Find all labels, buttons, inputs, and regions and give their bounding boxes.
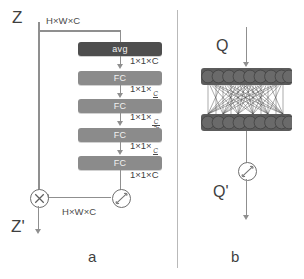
fc-block-4-label: FC: [114, 158, 127, 168]
avg-pool-label: avg: [112, 44, 127, 54]
panel-a-input-label: Z: [12, 9, 22, 26]
fc-block-1-label: FC: [114, 73, 127, 83]
figure-canvas: Z H×W×C avg 1×1×C FC 1×1×Cr FC 1×1×C2r F…: [0, 0, 304, 279]
output-arrow-head: [35, 229, 41, 234]
fc-block-2-label: FC: [114, 101, 127, 111]
arrow-fc4-to-sigmoid-shaft: [120, 170, 122, 190]
edge-dim-5: 1×1×C: [130, 170, 159, 180]
fc-block-4: FC: [78, 156, 162, 170]
panel-b-arrow-to-sigmoid-shaft: [246, 131, 248, 163]
output-arrow-shaft: [38, 206, 40, 230]
arrow-fc1-to-fc2-head: [117, 93, 123, 98]
caption-b: b: [231, 249, 239, 264]
panel-a-top-dim-label: H×W×C: [46, 16, 80, 26]
sigmoid-gate-icon: [112, 189, 131, 208]
panel-a-output-label: Z': [11, 218, 25, 235]
avg-pool-block: avg: [78, 42, 162, 56]
panel-a-bottom-dim-label: H×W×C: [62, 207, 96, 217]
panel-b-input-label: Q: [216, 38, 228, 54]
caption-a: a: [88, 249, 96, 264]
branch-to-avg-line: [38, 30, 121, 32]
panel-b-output-arrow-shaft: [246, 179, 248, 217]
arrow-avg-to-fc1-head: [117, 64, 123, 69]
panel-divider: [177, 10, 178, 268]
bottom-node-row: [201, 114, 292, 131]
panel-b-output-arrow-head: [243, 215, 249, 220]
multiply-gate-icon: [30, 189, 49, 208]
skip-connection-line: [38, 22, 40, 199]
branch-drop-line: [120, 30, 122, 42]
arrow-sigmoid-to-multiply-shaft: [46, 197, 111, 199]
fc-block-3-label: FC: [114, 130, 127, 140]
panel-b-output-label: Q': [213, 184, 229, 200]
top-node-row: [201, 68, 292, 85]
arrow-fc3-to-fc4-head: [117, 150, 123, 155]
edge-dim-1: 1×1×C: [130, 56, 159, 66]
arrow-fc2-to-fc3-head: [117, 121, 123, 126]
panel-b-input-arrow-shaft: [246, 27, 248, 65]
